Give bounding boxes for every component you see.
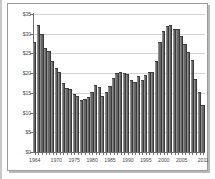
x-axis-tick [178, 152, 179, 155]
chart-figure: $35$30$25$20$15$10$5$0 19641970197519801… [0, 0, 215, 179]
y-axis-tick [30, 113, 33, 114]
x-axis-tick [124, 152, 125, 155]
x-axis-tick [78, 152, 79, 155]
x-axis-tick-label: 2011 [198, 157, 209, 164]
x-axis-tick [132, 152, 133, 155]
y-axis-tick [30, 34, 33, 35]
x-axis-tick [121, 152, 122, 155]
x-axis-tick [164, 152, 165, 155]
bar-series [33, 14, 205, 152]
y-axis-tick [30, 53, 33, 54]
x-axis-tick [157, 152, 158, 155]
y-axis-tick [30, 93, 33, 94]
x-axis-tick [106, 152, 107, 155]
y-axis-tick [30, 14, 33, 15]
y-axis-tick [30, 152, 33, 153]
x-axis-tick [85, 152, 86, 155]
x-axis-tick-label: 1995 [140, 157, 151, 164]
x-axis-tick-label: 2005 [176, 157, 187, 164]
x-axis-tick [171, 152, 172, 155]
x-axis-tick [160, 152, 161, 155]
x-axis-tick [196, 152, 197, 155]
x-axis-tick-label: 1985 [104, 157, 115, 164]
bar [201, 105, 204, 152]
x-axis-tick [175, 152, 176, 155]
x-axis-tick [189, 152, 190, 155]
x-axis-tick [139, 152, 140, 155]
x-axis-tick [167, 152, 168, 155]
x-axis-tick [46, 152, 47, 155]
x-axis-tick [42, 152, 43, 155]
x-axis-tick [142, 152, 143, 155]
x-axis-tick [114, 152, 115, 155]
x-axis-tick [200, 152, 201, 155]
x-axis-tick [99, 152, 100, 155]
x-axis-tick [128, 152, 129, 155]
x-axis-tick [74, 152, 75, 155]
x-axis-tick [103, 152, 104, 155]
x-axis-tick-label: 1980 [86, 157, 97, 164]
x-axis-tick-label: 1990 [122, 157, 133, 164]
x-axis-tick [53, 152, 54, 155]
x-axis-tick [185, 152, 186, 155]
y-axis-labels: $35$30$25$20$15$10$5$0 [8, 0, 31, 179]
x-axis-tick [67, 152, 68, 155]
x-axis-tick [81, 152, 82, 155]
x-axis-tick [96, 152, 97, 155]
x-axis-tick [149, 152, 150, 155]
x-axis-tick-label: 1964 [29, 157, 40, 164]
x-axis-tick [63, 152, 64, 155]
x-axis-tick [89, 152, 90, 155]
x-axis-tick [38, 152, 39, 155]
x-axis-tick [192, 152, 193, 155]
x-axis-tick [60, 152, 61, 155]
x-axis-tick-label: 1975 [69, 157, 80, 164]
y-axis-tick [30, 73, 33, 74]
x-axis-tick [49, 152, 50, 155]
x-axis-tick [35, 152, 36, 155]
x-axis-tick-label: 2000 [158, 157, 169, 164]
x-axis-tick-label: 1970 [51, 157, 62, 164]
x-axis-tick [203, 152, 204, 155]
x-axis-tick [146, 152, 147, 155]
x-axis-tick [56, 152, 57, 155]
page-left-rule [0, 0, 2, 179]
x-axis-tick [71, 152, 72, 155]
x-axis-tick [135, 152, 136, 155]
x-axis-tick [110, 152, 111, 155]
x-axis-tick [92, 152, 93, 155]
x-axis-tick [182, 152, 183, 155]
x-axis-tick [153, 152, 154, 155]
x-axis-tick [117, 152, 118, 155]
x-axis-line [33, 152, 205, 153]
y-axis-tick [30, 132, 33, 133]
